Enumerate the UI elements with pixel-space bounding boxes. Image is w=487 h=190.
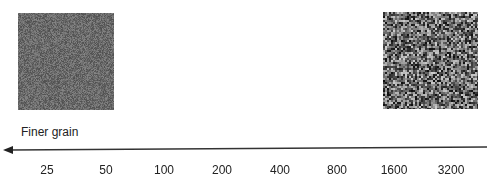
tick-label: 200 [212,163,232,177]
grain-axis [0,0,487,190]
tick-label: 50 [99,163,112,177]
tick-label: 3200 [438,163,465,177]
axis-line [10,147,487,150]
tick-label: 400 [270,163,290,177]
tick-label: 1600 [381,163,408,177]
tick-label: 100 [154,163,174,177]
arrow-left-icon [3,146,13,154]
tick-label: 25 [40,163,53,177]
tick-label: 800 [327,163,347,177]
